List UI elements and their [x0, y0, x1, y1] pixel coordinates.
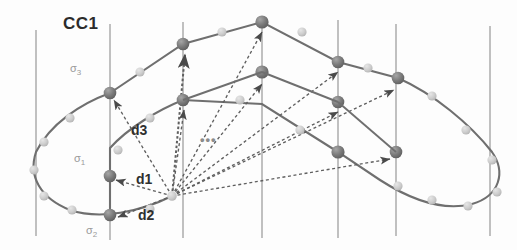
light-nodes-group	[29, 27, 501, 214]
inner-contour-path	[34, 93, 172, 214]
sample-node	[39, 137, 48, 146]
sample-node	[113, 145, 122, 154]
dashed-arrows-group	[114, 32, 394, 217]
sample-node	[217, 27, 226, 36]
contour-node	[104, 87, 117, 100]
arrow-8	[172, 72, 338, 196]
contour-node	[392, 72, 405, 85]
sample-node	[427, 195, 436, 204]
contour-node	[331, 145, 344, 158]
contour-node	[104, 170, 117, 183]
contour-node	[255, 15, 268, 28]
sample-node	[135, 67, 144, 76]
figure-canvas: CC1 σ3 σ1 σ2 d1 d2 d3 •••	[0, 0, 517, 250]
sample-node	[363, 63, 372, 72]
arrow-d1	[116, 180, 172, 196]
contour-node	[104, 209, 117, 222]
sample-node	[67, 205, 76, 214]
link-line	[262, 72, 338, 102]
sample-node	[427, 91, 436, 100]
outer-contour-curve	[110, 22, 499, 206]
link-line	[338, 102, 396, 152]
sample-node	[145, 113, 154, 122]
outer-contour-path	[110, 22, 499, 206]
gridlines-group	[36, 18, 490, 240]
link-line	[183, 72, 262, 100]
contour-node	[177, 38, 190, 51]
sample-node	[39, 191, 48, 200]
contour-diagram	[0, 0, 517, 250]
sample-node	[167, 191, 177, 201]
sample-node	[463, 201, 472, 210]
sample-node	[297, 27, 306, 36]
sample-node	[145, 204, 154, 213]
sample-node	[461, 125, 470, 134]
contour-node	[332, 56, 345, 69]
sample-node	[295, 125, 304, 134]
sample-node	[492, 187, 501, 196]
arrow-10	[172, 90, 394, 196]
sample-node	[393, 181, 402, 190]
sample-node	[235, 95, 244, 104]
sample-node	[29, 165, 38, 174]
inner-contour-curve	[34, 93, 172, 215]
sample-node	[487, 155, 496, 164]
arrow-9	[172, 112, 338, 196]
sample-node	[65, 113, 74, 122]
